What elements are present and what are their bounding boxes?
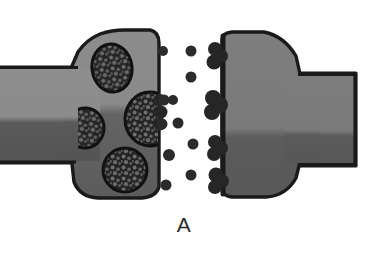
neurotransmitter-molecule	[186, 46, 197, 57]
presynaptic-neuron	[0, 30, 175, 198]
neurotransmitter-molecule	[188, 139, 199, 150]
neurotransmitter-molecule	[158, 46, 168, 56]
panel-label: A	[0, 212, 368, 238]
neurotransmitter-molecule	[168, 95, 178, 105]
neurotransmitter-molecule	[157, 119, 168, 130]
neurotransmitter-molecule	[173, 118, 184, 129]
postsynaptic-shaft-merge	[284, 76, 320, 163]
neurotransmitter-molecule	[159, 95, 170, 106]
neurotransmitter-molecule	[161, 180, 172, 191]
neurotransmitter-molecule	[186, 72, 197, 83]
postsynaptic-neuron	[204, 32, 356, 197]
synapse-figure: A	[0, 0, 368, 259]
neurotransmitter-molecule	[163, 149, 175, 161]
neurotransmitter-molecule	[186, 170, 197, 181]
synaptic-vesicle	[103, 148, 147, 192]
